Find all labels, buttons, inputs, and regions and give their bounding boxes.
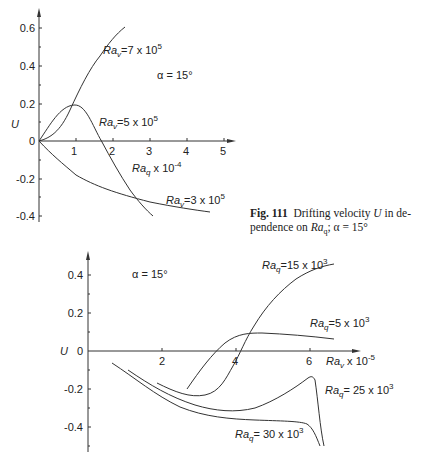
figure-number: Fig. 111 — [250, 207, 288, 219]
svg-text:6: 6 — [306, 355, 312, 367]
svg-text:0: 0 — [29, 135, 35, 147]
svg-text:0.2: 0.2 — [68, 307, 83, 319]
top-y-axis-arrow-icon — [37, 8, 41, 17]
svg-text:-0.4: -0.4 — [64, 421, 83, 433]
svg-text:0.2: 0.2 — [20, 98, 35, 110]
svg-text:5: 5 — [220, 145, 226, 157]
bottom-alpha-annotation: α = 15° — [132, 268, 168, 280]
label-rav-7e5: Rav=7 x 105 — [103, 42, 162, 59]
top-chart: 0.6 0.4 0.2 0 -0.2 -0.4 1 2 3 4 5 U Raq … — [11, 8, 236, 222]
bottom-chart: 0.4 0.2 0 -0.2 -0.4 2 4 6 U Rav x 10-5 α… — [60, 251, 394, 452]
svg-text:0.4: 0.4 — [68, 269, 83, 281]
caption-text-1: Drifting velocity — [293, 207, 373, 219]
bottom-x-axis-label: Rav x 10-5 — [326, 353, 376, 370]
caption-text-2: in de- — [382, 207, 411, 219]
svg-text:0: 0 — [77, 345, 83, 357]
svg-text:0.6: 0.6 — [20, 22, 35, 34]
top-y-axis-label: U — [11, 118, 19, 130]
svg-text:1: 1 — [71, 145, 77, 157]
label-rav-5e5: Rav=5 x 105 — [99, 114, 158, 131]
label-raq-25e3: Raq= 25 x 103 — [325, 382, 394, 399]
svg-text:-0.4: -0.4 — [16, 210, 35, 222]
svg-text:4: 4 — [183, 145, 189, 157]
svg-text:2: 2 — [159, 355, 165, 367]
caption-text-4: ; α = 15° — [327, 221, 367, 233]
label-raq-30e3: Raq= 30 x 103 — [235, 426, 304, 443]
svg-text:3: 3 — [146, 145, 152, 157]
top-x-axis-arrow-icon — [227, 139, 236, 143]
svg-text:4: 4 — [232, 355, 238, 367]
caption-text-3: pendence on — [250, 221, 311, 233]
caption-symbol-ra: Ra — [311, 221, 324, 233]
svg-text:2: 2 — [109, 145, 115, 157]
caption-symbol-u: U — [373, 207, 381, 219]
top-x-axis-label: Raq x 10-4 — [132, 160, 182, 177]
figure-caption: Fig. 111 Drifting velocity U in de- pend… — [250, 206, 440, 239]
bottom-chart-axes — [88, 256, 356, 452]
top-x-tick-labels: 1 2 3 4 5 — [71, 145, 226, 157]
top-alpha-annotation: α = 15° — [157, 69, 193, 81]
curve-raq-15e3 — [157, 264, 334, 396]
svg-text:-0.2: -0.2 — [64, 383, 83, 395]
bottom-y-axis-arrow-icon — [86, 251, 90, 260]
label-raq-15e3: Raq=15 x 103 — [262, 257, 328, 274]
bottom-x-axis-arrow-icon — [352, 349, 361, 353]
svg-text:-0.2: -0.2 — [16, 173, 35, 185]
svg-text:0.4: 0.4 — [20, 60, 35, 72]
label-raq-5e3: Raq=5 x 103 — [310, 315, 370, 332]
bottom-y-axis-label: U — [60, 345, 68, 357]
